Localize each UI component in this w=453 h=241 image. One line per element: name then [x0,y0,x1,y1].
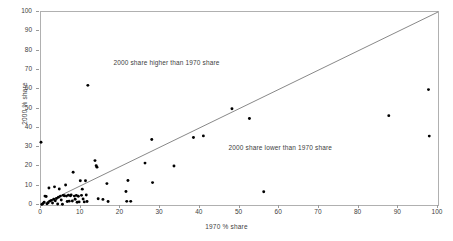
x-tick-label: 30 [149,208,169,215]
data-point [82,198,85,201]
data-point [58,188,61,191]
data-point [81,188,84,191]
y-axis-title: 2000 % share [21,34,28,174]
data-point [83,200,86,203]
plot-svg [41,12,438,205]
equality-reference-line [41,12,438,205]
data-point [129,200,132,203]
y-tick-mark [36,50,39,51]
x-tick-label: 10 [70,208,90,215]
data-point [77,195,80,198]
x-tick-label: 60 [268,208,288,215]
x-tick-label: 90 [387,208,407,215]
data-point [74,198,77,201]
data-point [85,194,88,197]
plot-area [40,11,439,206]
data-point [427,88,430,91]
scatter-chart: 0102030405060708090100 01020304050607080… [0,0,453,241]
y-tick-mark [36,165,39,166]
data-point [43,201,46,204]
y-tick-mark [36,185,39,186]
data-point [150,138,153,141]
y-tick-label: 90 [10,26,32,33]
data-point [202,134,205,137]
y-tick-mark [36,69,39,70]
data-point [80,194,83,197]
data-point [51,202,54,205]
y-tick-label: 10 [10,181,32,188]
data-point [94,159,97,162]
y-tick-mark [36,108,39,109]
x-tick-label: 0 [30,208,50,215]
data-point [428,135,431,138]
data-point [97,197,100,200]
y-tick-mark [36,30,39,31]
data-point [231,107,234,110]
data-point [144,162,147,165]
data-point [59,195,62,198]
data-point [262,190,265,193]
x-tick-label: 70 [308,208,328,215]
data-point [64,183,67,186]
data-point [45,195,48,198]
data-point [86,84,89,87]
data-point [78,200,81,203]
data-point [387,114,390,117]
y-tick-label: 100 [10,7,32,14]
data-point [84,179,87,182]
data-point [173,165,176,168]
y-tick-mark [36,146,39,147]
data-point [151,181,154,184]
data-point [107,200,110,203]
y-tick-mark [36,11,39,12]
x-tick-label: 80 [348,208,368,215]
data-point [192,136,195,139]
y-tick-mark [36,88,39,89]
data-point [61,203,64,206]
data-point [125,190,128,193]
x-tick-label: 100 [427,208,447,215]
data-point [47,187,50,190]
data-point [60,199,63,202]
y-tick-mark [36,127,39,128]
data-point [248,117,251,120]
x-tick-label: 20 [109,208,129,215]
data-point [56,203,59,206]
data-point [101,198,104,201]
data-point [105,182,108,185]
data-point [70,194,73,197]
y-tick-mark [36,204,39,205]
data-point [125,200,128,203]
x-tick-label: 40 [189,208,209,215]
data-point [86,200,89,203]
data-point [126,179,129,182]
data-point [68,200,71,203]
data-point [53,185,56,188]
data-point [71,199,74,202]
data-point [96,166,99,169]
annotation-above-line: 2000 share higher than 1970 share [113,59,219,66]
annotation-below-line: 2000 share lower than 1970 share [229,144,332,151]
data-point [79,179,82,182]
data-point [40,141,43,144]
x-axis-title: 1970 % share [0,223,453,230]
x-tick-label: 50 [229,208,249,215]
data-point [72,171,75,174]
y-tick-label: 0 [10,200,32,207]
